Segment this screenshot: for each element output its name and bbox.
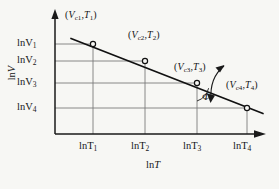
y-tick-1-prefix: ln [17,37,25,48]
x-tick-1-prefix: ln [79,140,87,151]
y-tick-4-prefix: ln [17,101,25,112]
x-axis-title: lnT [146,160,160,171]
y-tick-3-var: V [25,76,33,87]
y-tick-3-prefix: ln [17,76,25,87]
x-tick-4-sub: 4 [248,144,252,153]
y-tick-2-sub: 2 [33,58,37,67]
plot-canvas [0,0,279,189]
x-tick-3-sub: 3 [198,144,202,153]
x-tick-3-prefix: ln [183,140,191,151]
point-label-2: (Vc2,T2) [128,30,160,42]
data-point-3 [194,80,199,85]
callout-arrowhead-upper [216,65,225,73]
y-tick-1-sub: 1 [33,41,37,50]
y-tick-label-3: lnV3 [17,77,37,88]
y-tick-1-var: V [25,37,33,48]
y-tick-2-prefix: ln [17,54,25,65]
x-axis-title-var: T [154,159,160,170]
y-axis-title-var: V [6,66,17,72]
x-tick-label-3: lnT3 [183,141,201,152]
x-tick-label-1: lnT1 [79,141,97,152]
x-tick-1-sub: 1 [94,144,98,153]
y-tick-label-1: lnV1 [17,38,37,49]
point-label-4: (Vc4,T4) [226,80,258,92]
point-label-4-close: ) [254,79,257,90]
trend-line [71,39,263,114]
y-axis-title-prefix: ln [6,72,17,80]
x-tick-2-prefix: ln [131,140,139,151]
point-label-2-close: ) [156,29,159,40]
data-point-markers [90,41,249,110]
data-point-1 [90,41,95,46]
y-tick-label-2: lnV2 [17,55,37,66]
horizontal-gridlines [55,44,247,108]
y-tick-4-var: V [25,101,33,112]
point-label-1-close: ) [93,9,96,20]
x-tick-label-2: lnT2 [131,141,149,152]
x-tick-2-sub: 2 [146,144,150,153]
y-tick-4-sub: 4 [33,105,37,114]
data-point-2 [142,58,147,63]
y-tick-2-var: V [25,54,33,65]
point-label-3: (Vc3,T3) [174,62,206,74]
y-tick-label-4: lnV4 [17,102,37,113]
x-axis-title-prefix: ln [146,159,154,170]
point-label-3-close: ) [202,61,205,72]
figure-lnv-vs-lnt: lnV lnV1 lnV2 lnV3 lnV4 lnT1 lnT2 lnT3 l… [0,0,279,189]
vertical-droplines [93,44,247,134]
x-tick-4-prefix: ln [233,140,241,151]
y-tick-3-sub: 3 [33,80,37,89]
x-axis-arrowhead [254,130,266,138]
angle-symbol-phi: Φ [202,90,210,102]
x-tick-label-4: lnT4 [233,141,251,152]
point-label-1: (Vc1,T1) [65,10,97,22]
data-point-4 [244,105,249,110]
y-axis-arrowhead [51,9,58,19]
